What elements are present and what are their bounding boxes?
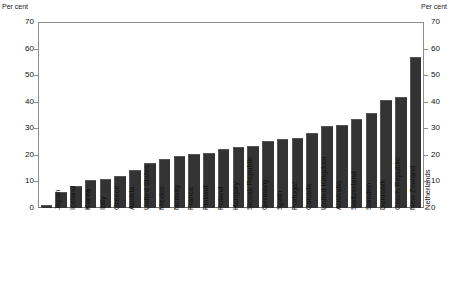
y-tick-mark-left: [34, 75, 38, 76]
x-axis-category-label: Japan: [54, 190, 62, 210]
x-axis-category-label: Canada: [305, 184, 313, 210]
x-axis-category-label: United Kingdom: [320, 157, 328, 210]
x-axis-category-label: Greece: [113, 185, 121, 210]
y-tick-label-right: 50: [431, 71, 447, 79]
x-axis-category-label: Italy: [99, 196, 107, 210]
y-tick-label-left: 40: [18, 98, 34, 106]
y-tick-mark-right: [424, 49, 428, 50]
x-axis-category-label: Austria: [128, 187, 136, 210]
x-axis-category-label: Netherlands: [424, 170, 432, 210]
x-axis-category-label: Iceland: [69, 186, 77, 210]
bar: [41, 205, 53, 208]
y-tick-mark-left: [34, 181, 38, 182]
x-axis-category-label: Korea: [84, 189, 92, 210]
y-tick-label-left: 60: [18, 45, 34, 53]
y-axis-unit-label-left: Per cent: [2, 2, 28, 11]
y-tick-mark-left: [34, 128, 38, 129]
y-tick-label-left: 50: [18, 71, 34, 79]
y-tick-label-right: 20: [431, 151, 447, 159]
y-tick-label-right: 30: [431, 124, 447, 132]
bar-series: [39, 23, 423, 208]
y-tick-label-left: 70: [18, 18, 34, 26]
x-axis-category-label: Hungary: [232, 182, 240, 210]
y-tick-label-left: 30: [18, 124, 34, 132]
x-axis-category-label: United States: [143, 165, 151, 210]
y-tick-mark-left: [34, 49, 38, 50]
x-axis-category-label: Mexico: [158, 186, 166, 210]
y-tick-label-right: 70: [431, 18, 447, 26]
x-axis-category-labels: JapanIcelandKoreaItalyGreeceAustriaUnite…: [39, 210, 423, 286]
x-axis-category-label: Switzerland: [350, 171, 358, 210]
x-axis-category-label: Spain: [276, 191, 284, 210]
x-axis-category-label: Sweden: [365, 183, 373, 210]
x-axis-category-label: Finland: [202, 185, 210, 210]
x-axis-category-label: Denmark: [379, 180, 387, 210]
y-tick-label-right: 40: [431, 98, 447, 106]
x-axis-category-label: New Zealand: [409, 166, 417, 210]
x-axis-category-label: Slovak Republic: [246, 156, 254, 210]
x-axis-category-label: Czech Republic: [394, 157, 402, 210]
x-axis-category-label: Australia: [335, 181, 343, 210]
y-tick-mark-right: [424, 128, 428, 129]
x-axis-category-label: Poland: [217, 187, 225, 210]
y-tick-label-right: 60: [431, 45, 447, 53]
x-axis-category-label: Portugal: [291, 182, 299, 210]
bar-chart-figure: Per cent Per cent 0010102020303040405050…: [0, 0, 463, 286]
y-tick-mark-right: [424, 155, 428, 156]
x-axis-category-label: Germany: [261, 179, 269, 210]
y-tick-label-right: 0: [431, 204, 447, 212]
y-tick-label-right: 10: [431, 177, 447, 185]
y-tick-mark-left: [34, 102, 38, 103]
y-tick-mark-right: [424, 75, 428, 76]
x-axis-category-label: France: [187, 187, 195, 210]
y-axis-unit-label-right: Per cent: [421, 2, 447, 11]
y-tick-mark-left: [34, 155, 38, 156]
y-tick-label-left: 0: [18, 204, 34, 212]
y-tick-label-left: 20: [18, 151, 34, 159]
x-axis-category-label: Norway: [173, 185, 181, 210]
y-tick-mark-right: [424, 102, 428, 103]
y-tick-label-left: 10: [18, 177, 34, 185]
